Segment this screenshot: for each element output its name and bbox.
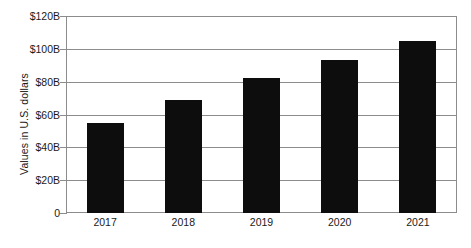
- y-axis-tick-mark: [60, 213, 67, 214]
- y-axis-tick-label: $120B: [2, 10, 60, 22]
- bar: [321, 60, 358, 213]
- y-axis-tick-label: $20B: [2, 174, 60, 186]
- x-axis-tick-label: 2019: [250, 216, 273, 228]
- y-axis-tick-label: $80B: [2, 76, 60, 88]
- x-axis-tick-labels: 20172018201920202021: [66, 216, 457, 236]
- y-axis-tick-label: $60B: [2, 109, 60, 121]
- x-axis-tick-label: 2021: [406, 216, 429, 228]
- y-axis-tick-label: $40B: [2, 141, 60, 153]
- bar: [243, 78, 280, 213]
- bars-layer: [66, 16, 457, 213]
- bar: [87, 123, 124, 213]
- bar: [399, 41, 436, 213]
- x-axis-tick-label: 2018: [172, 216, 195, 228]
- y-axis-tick-labels: 0$20B$40B$60B$80B$100B$120B: [0, 16, 60, 213]
- y-axis-tick-label: $100B: [2, 43, 60, 55]
- bar-chart: Values in U.S. dollars 0$20B$40B$60B$80B…: [0, 0, 471, 248]
- y-axis-tick-label: 0: [2, 207, 60, 219]
- bar: [165, 100, 202, 213]
- x-axis-tick-label: 2017: [93, 216, 116, 228]
- x-axis-tick-label: 2020: [328, 216, 351, 228]
